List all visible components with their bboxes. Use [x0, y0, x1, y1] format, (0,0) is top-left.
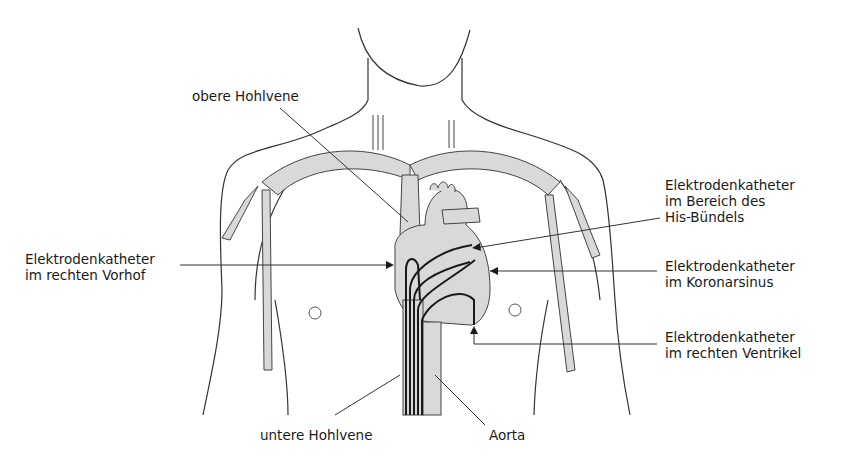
label-text: Aorta	[489, 427, 525, 443]
label-text: Elektrodenkatheter	[665, 177, 795, 193]
label-koronarsinus: Elektrodenkatheter im Koronarsinus	[665, 258, 795, 290]
label-rechter-vorhof: Elektrodenkatheter im rechten Vorhof	[25, 251, 155, 283]
label-text: im Koronarsinus	[665, 274, 795, 290]
neck-vessels	[373, 115, 454, 150]
label-text: Elektrodenkatheter	[25, 251, 155, 267]
label-text: His-Bündels	[665, 209, 795, 225]
label-text: Elektrodenkatheter	[665, 329, 801, 345]
label-text: im Bereich des	[665, 193, 795, 209]
label-untere-hohlvene: untere Hohlvene	[260, 427, 372, 443]
label-his-buendel: Elektrodenkatheter im Bereich des His-Bü…	[665, 177, 795, 225]
label-text: untere Hohlvene	[260, 427, 372, 443]
label-obere-hohlvene: obere Hohlvene	[192, 88, 299, 104]
label-text: Elektrodenkatheter	[665, 258, 795, 274]
label-aorta: Aorta	[489, 427, 525, 443]
label-text: im rechten Ventrikel	[665, 345, 801, 361]
label-rechter-ventrikel: Elektrodenkatheter im rechten Ventrikel	[665, 329, 801, 361]
label-text: obere Hohlvene	[192, 88, 299, 104]
anatomy-illustration	[0, 0, 850, 466]
label-text: im rechten Vorhof	[25, 267, 155, 283]
